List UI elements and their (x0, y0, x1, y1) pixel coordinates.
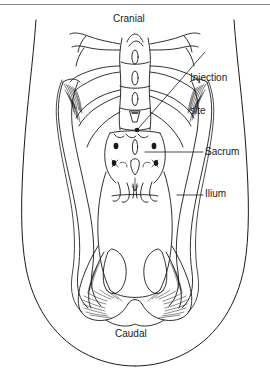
label-injection-line2: site (190, 105, 227, 116)
label-ilium: Ilium (205, 188, 226, 199)
label-caudal: Caudal (115, 328, 147, 339)
label-injection-line1: Injection (190, 72, 227, 83)
left-obturator-outline (103, 249, 126, 294)
left-ilium (58, 79, 101, 308)
median-sacral-crest (132, 140, 137, 155)
injection-site-dot (135, 128, 140, 133)
caudal-pelvis (78, 246, 191, 326)
label-injection-site: Injection site (190, 50, 227, 138)
spinous-slit-2 (132, 71, 138, 85)
sacral-hiatus (131, 159, 140, 175)
label-sacrum: Sacrum (205, 146, 239, 157)
left-transverse-processes (70, 33, 120, 147)
right-obturator-outline (144, 249, 167, 294)
spinous-slit-1 (132, 50, 138, 64)
foramina-marks (112, 160, 158, 167)
lumbar-vertebrae (119, 34, 151, 130)
anatomy-illustration (0, 0, 270, 373)
left-iliac-crest-shading (64, 84, 82, 122)
spinous-slit-3 (132, 93, 138, 106)
figure-root: Cranial Injection site Sacrum Ilium Caud… (0, 0, 270, 373)
label-cranial: Cranial (113, 13, 145, 24)
